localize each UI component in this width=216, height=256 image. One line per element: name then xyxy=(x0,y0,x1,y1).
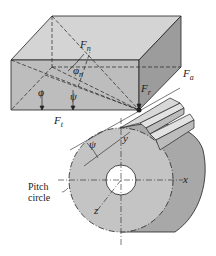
label-phi: φ xyxy=(38,86,44,98)
label-circle: circle xyxy=(28,192,51,203)
label-pitch: Pitch xyxy=(28,181,49,192)
label-ft: Ft xyxy=(53,114,64,129)
label-psi-gear: ψ xyxy=(89,138,96,150)
gear xyxy=(58,88,205,246)
helical-gear-force-diagram: Fn φn Fa Fr φ ψ Ft ψ y x z Pitch circle xyxy=(0,0,216,256)
label-x-axis: x xyxy=(182,173,188,185)
pitch-circle-leader xyxy=(62,188,68,192)
label-psi-box: ψ xyxy=(70,90,77,102)
label-y-axis: y xyxy=(122,132,128,144)
label-z-axis: z xyxy=(93,204,99,216)
label-fa: Fa xyxy=(182,67,194,82)
force-application-point xyxy=(137,108,142,113)
force-box xyxy=(11,16,181,113)
